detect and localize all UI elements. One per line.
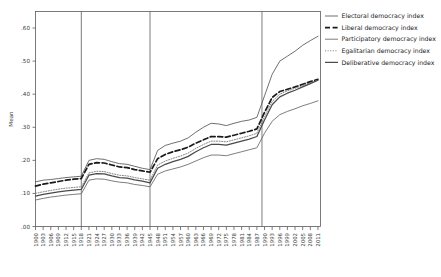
legend-label-1: Liberal democracy index (342, 24, 419, 32)
legend-label-0: Electoral democracy index (342, 12, 425, 20)
x-tick-label: 1912 (63, 233, 69, 247)
x-tick-label: 1918 (78, 232, 84, 246)
x-tick-label: 1924 (94, 232, 100, 246)
series-line-1 (36, 79, 318, 186)
x-tick-label: 1999 (284, 232, 290, 246)
x-tick-label: 1987 (254, 233, 260, 247)
x-tick-label: 1906 (48, 232, 54, 246)
x-tick-label: 1984 (246, 232, 252, 246)
x-tick-label: 1993 (269, 233, 275, 247)
legend-label-2: Participatory democracy index (342, 35, 437, 43)
y-tick-label: .20 (21, 157, 30, 163)
y-tick-label: .30 (21, 124, 30, 130)
x-tick-label: 1948 (155, 232, 161, 246)
x-tick-label: 1909 (55, 232, 61, 246)
x-tick-label: 1930 (109, 232, 115, 246)
x-tick-label: 1960 (185, 232, 191, 246)
x-tick-label: 1933 (116, 233, 122, 247)
y-axis-label: Mean (8, 111, 14, 127)
y-tick-label: .50 (21, 58, 30, 64)
x-tick-label: 1927 (101, 233, 107, 247)
x-tick-label: 1903 (40, 233, 46, 247)
x-tick-label: 1957 (178, 233, 184, 247)
x-tick-label: 1951 (162, 233, 168, 247)
x-tick-label: 1990 (262, 232, 268, 246)
x-tick-label: 1954 (170, 232, 176, 246)
x-tick-label: 2005 (300, 233, 306, 247)
x-tick-label: 1939 (132, 232, 138, 246)
x-tick-label: 2011 (315, 233, 321, 247)
y-tick-label: .60 (21, 25, 30, 31)
x-tick-label: 1981 (239, 233, 245, 247)
x-tick-label: 1936 (124, 232, 130, 246)
chart-container: .00.10.20.30.40.50.60Mean190019031906190… (0, 0, 441, 277)
x-tick-label: 1963 (193, 233, 199, 247)
x-tick-label: 1945 (147, 233, 153, 247)
x-tick-label: 1972 (216, 233, 222, 247)
legend-label-3: Egalitarian democracy index (342, 47, 431, 55)
x-tick-label: 1978 (231, 232, 237, 246)
y-tick-label: .40 (21, 91, 30, 97)
x-tick-label: 1900 (33, 232, 39, 246)
y-tick-label: .10 (21, 190, 30, 196)
x-tick-label: 1966 (200, 232, 206, 246)
x-tick-label: 1942 (139, 233, 145, 247)
x-tick-label: 2008 (307, 232, 313, 246)
line-chart: .00.10.20.30.40.50.60Mean190019031906190… (0, 0, 441, 277)
x-tick-label: 1915 (71, 233, 77, 247)
x-tick-label: 1969 (208, 232, 214, 246)
x-tick-label: 2002 (292, 233, 298, 247)
x-tick-label: 1975 (223, 233, 229, 247)
y-tick-label: .00 (21, 224, 30, 230)
x-tick-label: 1996 (277, 232, 283, 246)
x-tick-label: 1921 (86, 233, 92, 247)
legend-label-4: Deliberative democracy index (342, 59, 435, 67)
